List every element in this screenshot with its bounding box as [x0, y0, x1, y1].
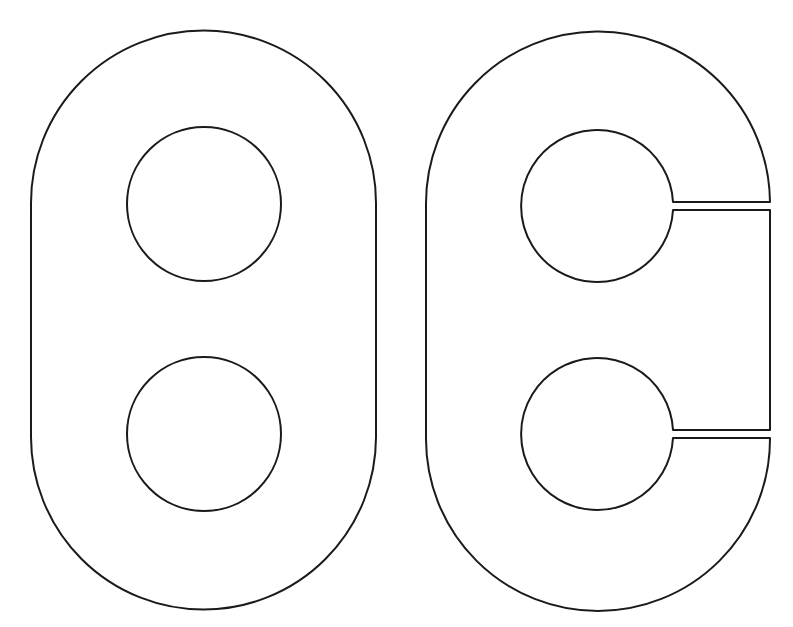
upper-hole-circle	[127, 127, 281, 281]
slit-stadium-outline	[426, 31, 770, 611]
closed-stadium-outline	[31, 30, 376, 609]
lower-hole-circle	[127, 357, 281, 511]
diagram-canvas	[0, 0, 793, 627]
slit-stadium-plate	[426, 31, 770, 611]
closed-stadium-plate	[31, 30, 376, 609]
